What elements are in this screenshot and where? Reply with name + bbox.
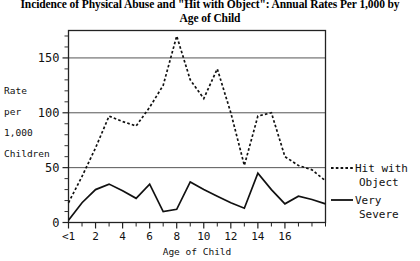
x-tick-label: 12 xyxy=(224,230,237,243)
legend-label-line1: Hit with xyxy=(355,162,408,175)
series-hit-with-object xyxy=(69,36,326,203)
x-tick-label: 14 xyxy=(251,230,265,243)
legend-label-line1: Very xyxy=(355,194,382,207)
y-tick-label: 50 xyxy=(45,161,59,175)
y-axis-tick-labels: 050100150 xyxy=(38,51,60,230)
plot-frame xyxy=(69,31,326,223)
y-axis-title-line: Rate xyxy=(4,85,27,96)
y-tick-label: 100 xyxy=(38,106,60,120)
legend-item-hit-with-object: Hit withObject xyxy=(331,162,408,189)
x-axis-title-text: Age of Child xyxy=(163,246,232,257)
line-very-severe xyxy=(69,173,326,220)
line-hit-with-object xyxy=(69,36,326,203)
x-axis-tick-labels: <1246810121416 xyxy=(62,230,292,243)
y-tick-label: 0 xyxy=(52,216,59,230)
series-very-severe xyxy=(69,173,326,220)
x-axis-ticks xyxy=(69,223,326,229)
x-tick-label: 6 xyxy=(146,230,153,243)
chart-figure: 050100150 <1246810121416 Rateper1,000Chi… xyxy=(0,0,420,261)
y-axis-title: Rateper1,000Children xyxy=(4,85,50,159)
plot-border xyxy=(69,31,326,223)
x-tick-label: 4 xyxy=(119,230,126,243)
legend-label-line2: Severe xyxy=(359,208,399,221)
chart-legend: Hit withObjectVerySevere xyxy=(331,162,408,221)
line-chart: 050100150 <1246810121416 Rateper1,000Chi… xyxy=(0,0,420,261)
legend-item-very-severe: VerySevere xyxy=(331,194,399,221)
grid-lines xyxy=(69,58,326,168)
x-axis-title: Age of Child xyxy=(163,246,232,257)
x-tick-label: <1 xyxy=(62,230,75,243)
x-tick-label: 2 xyxy=(92,230,99,243)
legend-label-line2: Object xyxy=(359,176,399,189)
y-tick-label: 150 xyxy=(38,51,60,65)
x-tick-label: 8 xyxy=(173,230,180,243)
y-axis-ticks xyxy=(63,36,69,223)
x-tick-label: 10 xyxy=(197,230,210,243)
y-axis-title-line: per xyxy=(4,106,21,117)
x-tick-label: 16 xyxy=(278,230,291,243)
y-axis-title-line: 1,000 xyxy=(4,127,33,138)
y-axis-title-line: Children xyxy=(4,148,50,159)
